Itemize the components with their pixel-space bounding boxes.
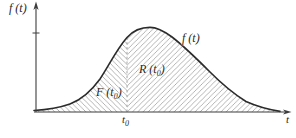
y-axis-label: f (t) xyxy=(9,2,27,14)
t0-tick-label: t0 xyxy=(122,114,129,125)
x-axis-label: t xyxy=(286,114,289,125)
region-R-label: R (t0) xyxy=(139,63,165,75)
region-F-label: F (t0) xyxy=(96,86,122,98)
figure-density-curve: f (t) f (t) F (t0) R (t0) t0 t xyxy=(0,0,296,138)
curve-label: f (t) xyxy=(182,32,200,44)
